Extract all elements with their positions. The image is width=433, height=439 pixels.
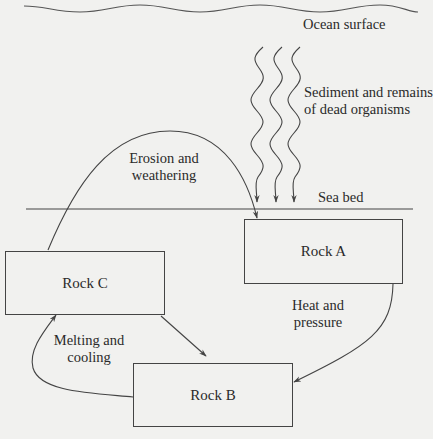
melting-label: Melting and cooling <box>52 332 126 366</box>
erosion-label-line-1: Erosion and <box>124 150 204 167</box>
ocean-surface-wave <box>24 5 418 12</box>
rock-c-to-b-arrow <box>161 316 206 356</box>
sea-bed-label: Sea bed <box>318 189 364 206</box>
rock-a-label: Rock A <box>301 243 346 260</box>
sediment-label-line-2: of dead organisms <box>304 101 433 118</box>
ocean-surface-label: Ocean surface <box>303 16 386 33</box>
sediment-label: Sediment and remains of dead organisms <box>304 84 433 118</box>
erosion-label: Erosion and weathering <box>124 150 204 184</box>
erosion-arrow <box>48 131 257 250</box>
heat-label: Heat and pressure <box>288 297 348 331</box>
rock-c-label: Rock C <box>62 275 107 292</box>
melting-label-line-1: Melting and <box>52 332 126 349</box>
melting-label-line-2: cooling <box>52 349 126 366</box>
rock-b-label: Rock B <box>190 387 235 404</box>
sediment-arrows <box>251 47 300 202</box>
rock-b-box: Rock B <box>133 363 293 427</box>
erosion-label-line-2: weathering <box>124 167 204 184</box>
sediment-label-line-1: Sediment and remains <box>304 84 433 101</box>
heat-label-line-1: Heat and <box>288 297 348 314</box>
rock-c-box: Rock C <box>5 251 165 315</box>
heat-label-line-2: pressure <box>288 314 348 331</box>
rock-a-box: Rock A <box>244 219 403 284</box>
